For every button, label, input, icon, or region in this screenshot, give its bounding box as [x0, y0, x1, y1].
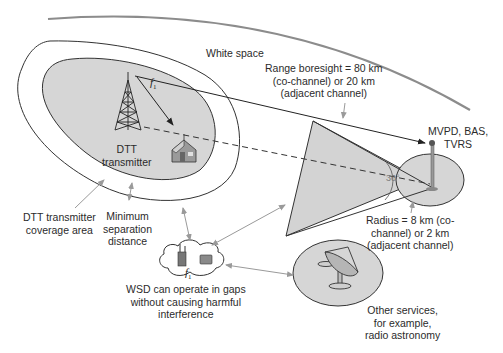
- radius-label: Radius = 8 km (co- channel) or 2 km (adj…: [366, 214, 454, 252]
- wsd-to-wedge-arrow: [212, 205, 285, 245]
- dtt-coverage-pointer: [75, 180, 104, 208]
- f1-tower-label: f1: [150, 76, 157, 91]
- range-boresight-label: Range boresight = 80 km (co-channel) or …: [265, 62, 383, 100]
- range-boresight-pointer: [343, 103, 345, 118]
- wsd-to-contour-arrow: [183, 208, 190, 240]
- wsd-to-radio-astronomy-arrow: [226, 265, 293, 275]
- wsd-tablet-icon: [200, 255, 212, 264]
- wsd-label: WSD can operate in gaps without causing …: [126, 283, 246, 321]
- mvpd-receive-site-circle: [396, 154, 464, 206]
- f1-wsd-label: f1: [185, 266, 192, 281]
- dtt-transmitter-label: DTT transmitter: [102, 143, 152, 168]
- radius-pointer: [411, 202, 413, 213]
- minimum-separation-label: Minimum separation distance: [103, 210, 152, 248]
- other-services-label: Other services, for example, radio astro…: [365, 304, 440, 342]
- dtt-coverage-area-label: DTT transmitter coverage area: [23, 211, 96, 236]
- mvpd-bas-tvrs-label: MVPD, BAS, TVRS: [428, 125, 488, 150]
- white-space-label: White space: [206, 47, 264, 60]
- angle-30-label: 30°: [386, 173, 400, 183]
- wsd-cloud: [160, 240, 224, 276]
